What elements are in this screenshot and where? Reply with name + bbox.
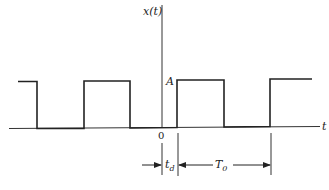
period-label: T0	[215, 159, 227, 170]
delay-label: td	[165, 159, 175, 170]
origin-label: 0	[158, 131, 164, 141]
x-axis-label: t	[322, 121, 326, 132]
pulse-train-diagram: x(t) t A 0 td T0	[0, 0, 329, 190]
period-label-sub: 0	[222, 164, 227, 173]
pulse-waveform	[18, 79, 312, 129]
amplitude-label: A	[166, 76, 174, 87]
y-axis-label: x(t)	[143, 6, 162, 17]
delay-label-sub: d	[169, 164, 174, 173]
